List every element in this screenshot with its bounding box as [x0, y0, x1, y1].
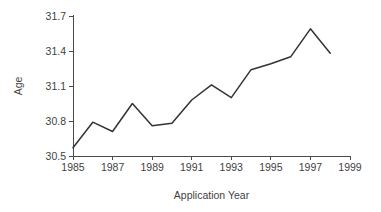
line-chart: 30.530.831.131.431.7 1985198719891991199…: [0, 0, 381, 212]
x-tick-label: 1989: [140, 161, 164, 173]
y-tick-label: 31.1: [46, 80, 67, 92]
x-tick-label: 1997: [299, 161, 323, 173]
chart-background: [0, 0, 381, 212]
x-tick-label: 1987: [101, 161, 125, 173]
y-tick-label: 30.5: [46, 150, 67, 162]
chart-canvas: 30.530.831.131.431.7 1985198719891991199…: [0, 0, 381, 212]
x-tick-label: 1985: [61, 161, 85, 173]
y-tick-label: 31.4: [46, 45, 67, 57]
y-tick-label: 31.7: [46, 10, 67, 22]
y-axis-title: Age: [12, 77, 24, 96]
x-tick-label: 1999: [338, 161, 362, 173]
x-axis-title: Application Year: [174, 189, 250, 201]
x-tick-label: 1995: [259, 161, 283, 173]
y-tick-label: 30.8: [46, 115, 67, 127]
x-tick-label: 1993: [220, 161, 244, 173]
x-tick-label: 1991: [180, 161, 204, 173]
